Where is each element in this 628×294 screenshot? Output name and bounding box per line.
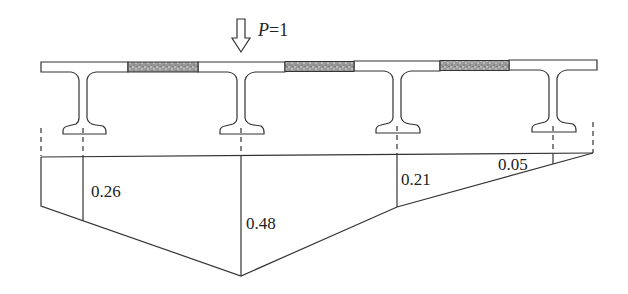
load-label: P=1	[257, 20, 288, 40]
ordinate-value-4: 0.05	[498, 155, 528, 174]
ordinate-value-1: 0.26	[91, 182, 121, 201]
center-lines	[41, 122, 593, 157]
ordinate-value-2: 0.48	[246, 214, 276, 233]
girder-4	[509, 60, 597, 132]
load-arrow-icon	[232, 19, 250, 52]
ordinate-value-3: 0.21	[401, 170, 431, 189]
wet-joints	[128, 61, 509, 73]
influence-line-diagram: P=1 0.26 0.48 0.21 0.05	[0, 0, 628, 294]
girder-2	[198, 62, 285, 134]
wet-joint-3	[440, 61, 509, 71]
girder-3	[354, 61, 440, 133]
girder-1	[41, 62, 128, 134]
wet-joint-2	[285, 62, 354, 72]
wet-joint-1	[128, 62, 198, 72]
